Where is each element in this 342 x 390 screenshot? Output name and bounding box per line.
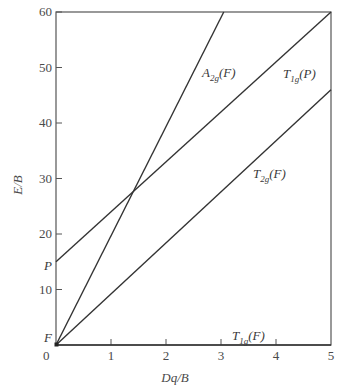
y-tick-label: 10 <box>39 282 52 297</box>
y-tick-label: 30 <box>39 171 52 186</box>
y-axis-ticks: 102030405060 <box>39 4 62 297</box>
energy-level-diagram: 102030405060 12345 A2g(F) T1g(P) T2g(F) … <box>0 0 342 390</box>
series-lines <box>55 12 332 347</box>
label-t1g-f: T1g(F) <box>232 328 265 346</box>
x-tick-label: 3 <box>218 348 225 363</box>
x-tick-label: 2 <box>163 348 170 363</box>
label-t2g-f: T2g(F) <box>253 166 286 184</box>
y-tick-label: 40 <box>39 115 52 130</box>
marker-p: P <box>43 258 52 273</box>
x-tick-label: 4 <box>273 348 280 363</box>
x-axis-title: Dq/B <box>160 370 189 385</box>
y-tick-label: 50 <box>39 60 52 75</box>
series-line-t1g-p- <box>56 12 331 262</box>
origin-label: 0 <box>43 348 50 363</box>
label-a2g-f: A2g(F) <box>201 65 236 83</box>
label-t1g-p: T1g(P) <box>283 66 316 84</box>
x-tick-label: 1 <box>108 348 115 363</box>
series-line-t2g-f- <box>56 90 331 345</box>
series-line-a2g-f- <box>56 12 224 345</box>
y-tick-label: 60 <box>39 4 52 19</box>
y-axis-title: E/B <box>10 175 25 196</box>
x-tick-label: 5 <box>328 348 335 363</box>
plot-frame <box>56 12 331 345</box>
y-tick-label: 20 <box>39 226 52 241</box>
origin-point <box>55 343 59 347</box>
x-axis-ticks: 12345 <box>108 339 335 363</box>
marker-f: F <box>43 330 53 345</box>
